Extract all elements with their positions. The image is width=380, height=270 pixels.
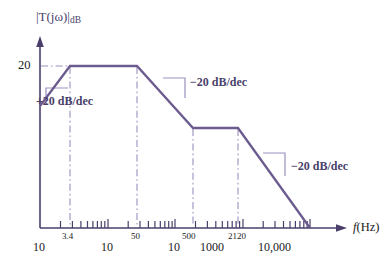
- x-tick-label-10-first: 10: [33, 241, 45, 253]
- slope-label-fall-1: −20 dB/dec: [190, 76, 247, 88]
- x-tick-label-1000: 1000: [200, 241, 224, 253]
- x-axis-arrowhead: [336, 224, 347, 232]
- x-tick-label-3p4: 3.4: [62, 232, 73, 241]
- y-axis-arrowhead: [36, 36, 44, 47]
- slope-triangle-fall-1: [163, 78, 185, 98]
- breakpoint-guides: [41, 66, 238, 226]
- bode-magnitude-curve: [40, 66, 310, 228]
- y-axis-title-main: |T(jω)|: [36, 9, 70, 24]
- x-tick-label-10-second: 10: [101, 241, 113, 253]
- x-axis-title-unit: (Hz): [356, 220, 379, 234]
- slope-triangle-fall-2: [263, 153, 285, 176]
- x-tick-label-500: 500: [182, 232, 196, 241]
- y-axis-title-subscript: dB: [70, 15, 81, 25]
- x-axis-log-ticks: [61, 219, 311, 228]
- x-axis-title: f(Hz): [353, 221, 379, 234]
- x-tick-label-50: 50: [131, 232, 140, 241]
- y-axis-value-20db: 20: [18, 59, 31, 72]
- slope-triangles: [46, 78, 285, 176]
- y-axis-title: |T(jω)|dB: [36, 10, 81, 24]
- x-tick-label-2120: 2120: [228, 232, 246, 241]
- x-tick-label-10000: 10,000: [258, 241, 291, 253]
- slope-label-rise: +20 dB/dec: [36, 95, 93, 107]
- bode-magnitude-plot-figure: |T(jω)|dB 20 +20 dB/dec −20 dB/dec −20 d…: [0, 0, 380, 270]
- x-tick-label-10-third: 10: [168, 241, 180, 253]
- plot-canvas: [0, 0, 380, 270]
- slope-label-fall-2: −20 dB/dec: [291, 160, 348, 172]
